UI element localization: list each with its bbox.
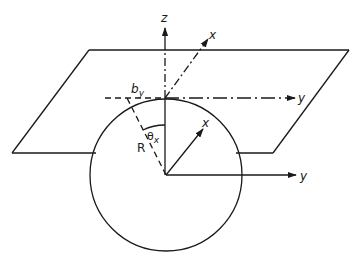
- angle-label: θx: [147, 130, 160, 145]
- lower-x-axis: [166, 129, 203, 175]
- sphere-tangent-plane-diagram: z x y by R θx x y: [0, 0, 357, 258]
- lower-x-axis-label: x: [201, 116, 210, 130]
- upper-x-axis: [165, 39, 208, 98]
- upper-y-axis-label: y: [297, 91, 306, 105]
- lower-y-axis-label: y: [299, 169, 308, 183]
- z-axis-label: z: [160, 11, 168, 25]
- upper-x-axis-label: x: [208, 28, 217, 42]
- radius-label: R: [137, 141, 145, 155]
- offset-label: by: [131, 82, 145, 98]
